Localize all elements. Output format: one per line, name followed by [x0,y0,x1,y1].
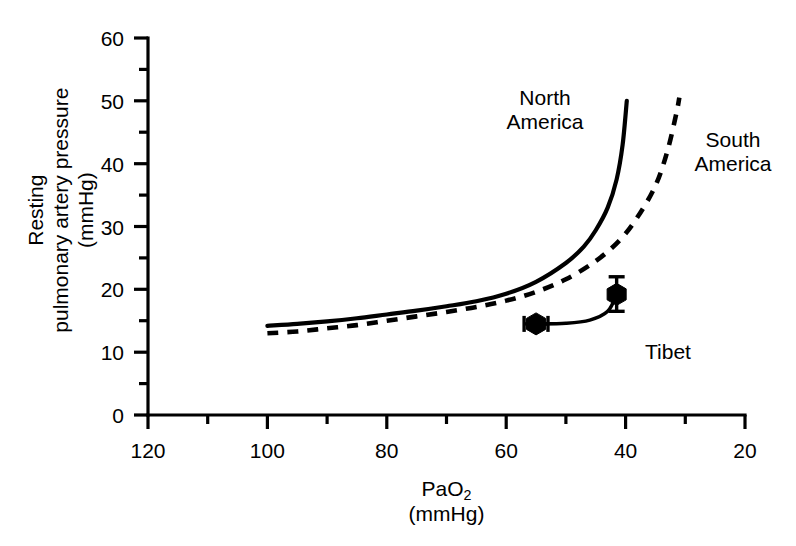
x-tick-label-80: 80 [375,440,398,461]
x-axis-title: PaO2 (mmHg) [148,477,745,527]
plot-canvas [0,0,796,546]
y-axis-title-line2: pulmonary artery pressure [49,87,74,332]
annotation-north-america: North America [506,86,583,134]
data-point-marker-tibet-1 [607,283,626,305]
chart-figure: 60 50 40 30 20 10 0 120 100 80 60 40 20 … [0,0,796,546]
y-axis-major-ticks [134,38,148,415]
series-line-north-america [267,101,626,326]
x-tick-label-20: 20 [733,440,756,461]
annotation-north-america-line2: America [506,110,583,134]
x-axis-title-subscript: 2 [464,487,472,503]
data-point-marker-tibet-0 [527,313,546,335]
x-axis-title-main: PaO2 [148,477,745,502]
x-axis-title-text: PaO [422,477,464,500]
annotation-south-america-line1: South [694,128,771,152]
annotation-north-america-line1: North [506,86,583,110]
y-axis-title-line3: (mmHg) [74,87,99,332]
x-axis-title-units: (mmHg) [148,502,745,527]
x-tick-label-60: 60 [495,440,518,461]
x-tick-label-40: 40 [614,440,637,461]
x-tick-label-100: 100 [250,440,285,461]
annotation-south-america: South America [694,128,771,176]
y-axis-title-line1: Resting [24,87,49,332]
x-tick-label-120: 120 [130,440,165,461]
annotation-tibet: Tibet [645,340,691,364]
annotation-south-america-line2: America [694,152,771,176]
y-axis-title: Resting pulmonary artery pressure (mmHg) [14,0,109,420]
